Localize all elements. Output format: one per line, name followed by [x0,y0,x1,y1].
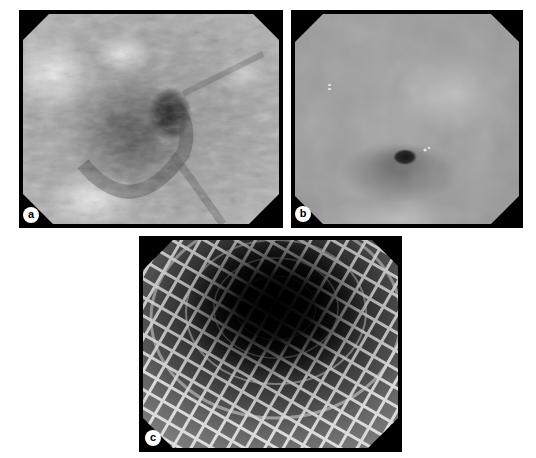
panel-c-image [143,240,398,448]
panel-c-label: c [145,430,161,446]
panel-a-image [23,14,279,224]
panel-a-label: a [23,207,39,223]
panel-b-image [295,14,519,224]
panel-b: b [291,10,523,228]
panel-b-label: b [295,206,311,222]
panel-c: c [139,236,402,452]
panel-a: a [19,10,283,228]
